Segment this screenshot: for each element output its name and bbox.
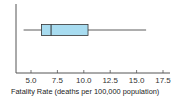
box-iqr <box>42 25 88 36</box>
x-tick-label: 7.5 <box>52 76 64 85</box>
x-tick-label: 10.0 <box>76 76 92 85</box>
x-tick-label: 15.0 <box>129 76 145 85</box>
boxplot-chart: 5.07.510.012.515.017.5 Fatality Rate (de… <box>0 0 183 104</box>
x-tick-label: 12.5 <box>102 76 118 85</box>
x-tick-label: 17.5 <box>155 76 171 85</box>
x-tick-label: 5.0 <box>25 76 37 85</box>
x-axis-label: Fatality Rate (deaths per 100,000 popula… <box>11 87 159 96</box>
